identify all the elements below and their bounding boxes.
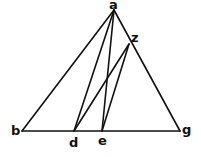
label-z: z: [131, 30, 139, 45]
label-g: g: [182, 122, 191, 137]
label-d: d: [69, 135, 78, 150]
segment-ab: [22, 10, 114, 131]
label-e: e: [98, 133, 107, 148]
segment-ag: [114, 10, 180, 131]
geometry-diagram: a b g d e z: [0, 0, 201, 157]
segment-zd: [74, 44, 129, 131]
label-b: b: [11, 123, 20, 138]
label-a: a: [109, 0, 118, 12]
